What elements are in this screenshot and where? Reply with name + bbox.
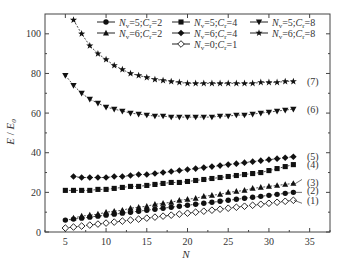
circle-marker-icon (226, 198, 231, 203)
square-marker-icon (283, 164, 288, 169)
diamond-marker-icon (176, 167, 183, 174)
diamond-marker-icon (249, 158, 256, 165)
y-tick-label: 20 (31, 187, 41, 198)
star-marker-icon (225, 80, 232, 87)
diamond-marker-icon (209, 163, 216, 170)
triangle-up-marker-icon (274, 182, 280, 188)
square-marker-icon (112, 186, 117, 191)
triangle-down-marker-icon (127, 111, 133, 117)
diamond-marker-icon (160, 169, 167, 176)
square-marker-icon (226, 174, 231, 179)
star-marker-icon (249, 80, 256, 87)
open-diamond-marker-icon (257, 201, 264, 208)
triangle-down-marker-icon (258, 111, 264, 117)
circle-marker-icon (185, 203, 190, 208)
circle-marker-icon (266, 193, 271, 198)
square-marker-icon (218, 175, 223, 180)
circle-marker-icon (201, 201, 206, 206)
square-marker-icon (95, 187, 100, 192)
triangle-up-marker-icon (168, 199, 174, 205)
triangle-down-marker-icon (70, 83, 76, 89)
curve-label: (1) (307, 195, 319, 207)
open-diamond-marker-icon (160, 213, 167, 220)
triangle-up-marker-icon (160, 200, 166, 206)
open-diamond-marker-icon (78, 223, 85, 230)
triangle-up-marker-icon (119, 207, 125, 213)
open-diamond-marker-icon (200, 208, 207, 215)
triangle-up-marker-icon (282, 181, 288, 187)
y-tick-label: 40 (31, 147, 41, 158)
square-marker-icon (177, 180, 182, 185)
curve-labels: (7)(6)(5)(4)(3)(2)(1) (294, 76, 319, 207)
triangle-down-marker-icon (209, 115, 215, 121)
star-marker-icon (208, 80, 215, 87)
open-diamond-marker-icon (233, 204, 240, 211)
open-diamond-marker-icon (127, 217, 134, 224)
circle-marker-icon (250, 195, 255, 200)
series-line (74, 20, 294, 84)
triangle-down-marker-icon (103, 105, 109, 111)
x-tick-label: 20 (183, 236, 193, 247)
square-marker-icon (242, 172, 247, 177)
circle-marker-icon (209, 200, 214, 205)
square-marker-icon (275, 166, 280, 171)
legend-label: Nv=0;Cr=1 (193, 39, 237, 52)
chart: 5101520253035 020406080100 (7)(6)(5)(4)(… (0, 0, 344, 269)
legend-label: Nv=6;Cr=2 (118, 28, 162, 41)
star-marker-icon (282, 78, 289, 85)
star-marker-icon (233, 80, 240, 87)
open-diamond-marker-icon (103, 220, 110, 227)
star-marker-icon (103, 56, 110, 63)
triangle-down-marker-icon (184, 115, 190, 121)
star-marker-icon (192, 80, 199, 87)
circle-marker-icon (193, 202, 198, 207)
open-diamond-marker-icon (209, 207, 216, 214)
diamond-marker-icon (103, 174, 110, 181)
diamond-marker-icon (135, 171, 142, 178)
circle-marker-icon (283, 191, 288, 196)
triangle-down-marker-icon (241, 113, 247, 119)
legend-item: Nv=0;Cr=1 (172, 39, 237, 52)
open-diamond-marker-icon (70, 224, 77, 231)
star-marker-icon (257, 79, 264, 86)
open-diamond-marker-icon (282, 198, 289, 205)
square-marker-icon (87, 188, 92, 193)
diamond-marker-icon (119, 173, 126, 180)
triangle-up-marker-icon (95, 211, 101, 217)
open-diamond-marker-icon (168, 212, 175, 219)
triangle-down-marker-icon (87, 97, 93, 103)
triangle-down-marker-icon (282, 108, 288, 114)
star-marker-icon (143, 74, 150, 81)
star-marker-icon (70, 16, 77, 23)
leader-line (294, 179, 302, 184)
legend-item: Nv=6;Cr=2 (97, 28, 162, 41)
diamond-marker-icon (225, 161, 232, 168)
triangle-down-marker-icon (192, 115, 198, 121)
circle-marker-icon (217, 199, 222, 204)
square-marker-icon (144, 183, 149, 188)
square-marker-icon (291, 162, 296, 167)
star-marker-icon (168, 78, 175, 85)
open-diamond-marker-icon (86, 222, 93, 229)
curve-label: (4) (307, 159, 319, 171)
star-marker-icon (94, 50, 101, 57)
legend-label: Nv=6;Cr=8 (271, 28, 315, 41)
open-diamond-marker-icon (184, 210, 191, 217)
triangle-up-marker-icon (290, 180, 296, 186)
open-diamond-marker-icon (249, 202, 256, 209)
square-marker-icon (258, 170, 263, 175)
open-diamond-marker-icon (111, 219, 118, 226)
diamond-marker-icon (127, 172, 134, 179)
star-marker-icon (86, 42, 93, 49)
triangle-up-marker-icon (209, 192, 215, 198)
triangle-down-marker-icon (176, 115, 182, 121)
circle-marker-icon (258, 194, 263, 199)
diamond-marker-icon (217, 162, 224, 169)
open-diamond-marker-icon (217, 206, 224, 213)
triangle-down-marker-icon (225, 114, 231, 120)
circle-marker-icon (242, 196, 247, 201)
diamond-marker-icon (111, 173, 118, 180)
square-marker-icon (120, 185, 125, 190)
x-tick-label: 5 (63, 236, 68, 247)
x-tick-label: 25 (223, 236, 233, 247)
